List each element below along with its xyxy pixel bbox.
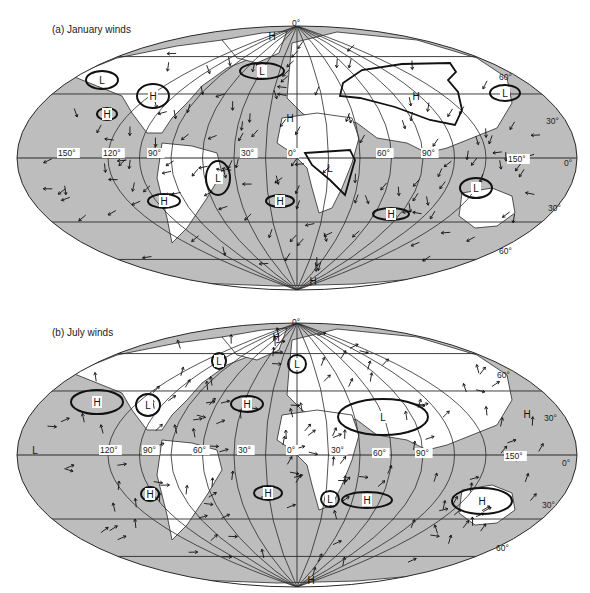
svg-text:H: H [412, 91, 419, 102]
svg-text:H: H [276, 196, 283, 207]
panel-title-july: (b) July winds [52, 327, 113, 338]
low-pressure-center: L [325, 162, 335, 174]
january-winds-map: HLLHHHHLLLHHHLH150°120°90°30°0°60°90°150… [0, 0, 590, 296]
svg-text:H: H [149, 91, 156, 102]
longitude-label: 30° [241, 148, 254, 158]
svg-text:H: H [268, 31, 275, 42]
latitude-label: 30° [542, 500, 555, 510]
high-pressure-center: H [271, 331, 281, 343]
high-pressure-center: H [267, 30, 277, 42]
svg-text:H: H [93, 397, 100, 408]
high-pressure-center: H [285, 112, 295, 124]
svg-text:L: L [216, 356, 222, 367]
january-winds-panel: HLLHHHHLLLHHHLH150°120°90°30°0°60°90°150… [0, 0, 590, 296]
svg-text:L: L [473, 183, 479, 194]
svg-text:L: L [32, 445, 38, 456]
longitude-label: 90° [148, 148, 161, 158]
longitude-label: 60° [377, 148, 390, 158]
prime-meridian-label: 0° [292, 18, 300, 28]
svg-text:H: H [243, 399, 250, 410]
svg-text:H: H [146, 489, 153, 500]
latitude-label: 30° [546, 116, 559, 126]
svg-text:H: H [103, 109, 110, 120]
longitude-label: 150° [505, 451, 523, 461]
svg-text:H: H [363, 495, 370, 506]
svg-text:L: L [145, 400, 151, 411]
longitude-label: 90° [143, 445, 156, 455]
panel-title-january: (a) January winds [52, 24, 131, 35]
svg-text:L: L [99, 75, 105, 86]
high-pressure-center: H [411, 90, 421, 102]
longitude-label: 150° [58, 148, 76, 158]
longitude-label: 0° [287, 445, 295, 455]
july-winds-panel: HLLHLHLHLHHLHHH120°90°60°30°0°30°60°90°1… [0, 296, 590, 593]
longitude-label: 120° [103, 148, 121, 158]
longitude-label: 90° [416, 448, 429, 458]
latitude-label: 60° [499, 72, 512, 82]
latitude-label: 0° [562, 458, 570, 468]
svg-text:H: H [264, 488, 271, 499]
svg-text:L: L [294, 359, 300, 370]
july-winds-map: HLLHLHLHLHHLHHH120°90°60°30°0°30°60°90°1… [0, 296, 590, 593]
longitude-label: 60° [193, 445, 206, 455]
high-pressure-center: H [306, 574, 316, 586]
low-pressure-center: L [30, 444, 40, 456]
latitude-label: 60° [499, 246, 512, 256]
longitude-label: 120° [100, 445, 118, 455]
latitude-label: 0° [564, 158, 572, 168]
svg-text:H: H [309, 276, 316, 287]
longitude-label: 30° [238, 445, 251, 455]
latitude-label: 30° [544, 413, 557, 423]
svg-text:H: H [307, 575, 314, 586]
svg-text:L: L [215, 173, 221, 184]
prime-meridian-label: 0° [292, 317, 300, 327]
svg-text:H: H [478, 496, 485, 507]
longitude-label: 30° [331, 445, 344, 455]
longitude-label: 60° [373, 448, 386, 458]
longitude-label: 0° [288, 148, 296, 158]
svg-text:H: H [286, 113, 293, 124]
svg-text:L: L [502, 88, 508, 99]
longitude-label: 90° [422, 148, 435, 158]
svg-text:H: H [387, 209, 394, 220]
svg-text:L: L [259, 66, 265, 77]
svg-text:L: L [327, 494, 333, 505]
svg-text:H: H [272, 332, 279, 343]
latitude-label: 30° [548, 203, 561, 213]
svg-text:L: L [327, 163, 333, 174]
svg-text:L: L [380, 412, 386, 423]
high-pressure-center: H [522, 408, 532, 420]
svg-text:H: H [523, 409, 530, 420]
low-pressure-center: L [212, 353, 226, 369]
svg-text:H: H [160, 196, 167, 207]
latitude-label: 60° [497, 370, 510, 380]
high-pressure-center: H [308, 275, 318, 287]
longitude-label: 150° [508, 154, 526, 164]
latitude-label: 60° [496, 543, 509, 553]
